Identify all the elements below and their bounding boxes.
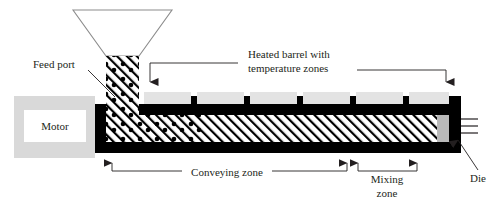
die-block [449, 96, 461, 153]
heater-block [144, 92, 191, 104]
barrel-left-end [95, 104, 106, 153]
conveying-zone-label: Conveying zone [191, 166, 263, 178]
heater-block [409, 92, 449, 104]
heater-separator [350, 96, 356, 104]
feed-port-label: Feed port [33, 58, 75, 70]
feed-throat-pellets [106, 56, 139, 142]
heater-block [250, 92, 297, 104]
barrel-bottom-wall [95, 142, 461, 153]
heater-block [303, 92, 350, 104]
feed-zone-pellets [139, 115, 201, 142]
heater-separator [297, 96, 303, 104]
extruder-diagram: Motor [0, 0, 504, 211]
barrel-top-wall [139, 104, 461, 115]
motor-label: Motor [41, 120, 69, 132]
heater-block [356, 92, 403, 104]
melt-pool [437, 115, 449, 142]
heater-separator [244, 96, 250, 104]
die-label: Die [470, 172, 486, 184]
heater-separator [191, 96, 197, 104]
mixing-zone-label-line2: zone [377, 187, 398, 199]
heated-barrel-label-line2: temperature zones [248, 62, 328, 74]
extruder-schematic-svg: Motor [0, 0, 504, 211]
heater-separator [403, 96, 409, 104]
heated-barrel-label-line1: Heated barrel with [248, 48, 330, 60]
mixing-zone-label-line1: Mixing [371, 173, 404, 185]
heater-block [197, 92, 244, 104]
motor-assembly: Motor [14, 96, 95, 158]
